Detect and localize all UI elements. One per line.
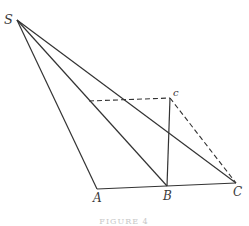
label-C: C (233, 185, 242, 199)
dashed-line-dc (89, 98, 170, 101)
label-S: S (4, 12, 13, 27)
geometry-diagram: S A B C c FIGURE 4 (0, 0, 249, 226)
solid-lines (17, 20, 236, 189)
label-A: A (92, 191, 102, 205)
line-Bc (167, 98, 170, 186)
label-c: c (173, 87, 179, 98)
figure-caption: FIGURE 4 (99, 217, 148, 226)
point-labels: S A B C c (4, 12, 242, 205)
line-SB (17, 20, 167, 186)
line-SC (17, 20, 236, 183)
label-B: B (162, 189, 172, 203)
dashed-lines (89, 98, 236, 183)
line-SA (17, 20, 97, 189)
